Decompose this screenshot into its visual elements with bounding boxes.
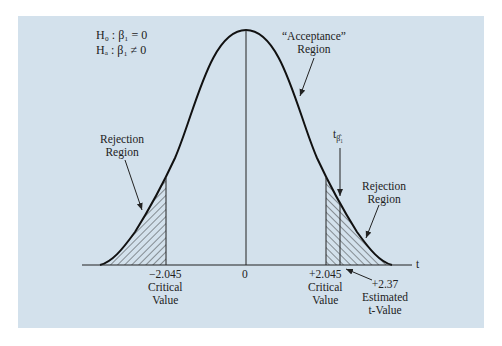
- left-rejection-shading: [100, 178, 166, 265]
- axis-variable-label: t: [416, 258, 419, 271]
- estimated-t-value: +2.37 Estimated t-Value: [362, 278, 408, 317]
- left-rejection-label: Rejection Region: [100, 133, 144, 159]
- acceptance-region-label: “Acceptance” Region: [282, 30, 346, 56]
- t-beta-label: tβ̂₁: [333, 128, 343, 145]
- t-distribution-plot: [0, 0, 502, 346]
- alternative-hypothesis: Hₐ : β₁ ≠ 0: [96, 43, 147, 58]
- right-critical-value: +2.045 Critical Value: [308, 268, 343, 307]
- null-hypothesis: H₀ : β₁ = 0: [96, 28, 147, 43]
- center-tick: 0: [242, 268, 248, 281]
- left-critical-value: −2.045 Critical Value: [148, 268, 183, 307]
- hypotheses: H₀ : β₁ = 0 Hₐ : β₁ ≠ 0: [96, 28, 147, 58]
- right-rejection-label: Rejection Region: [362, 180, 406, 206]
